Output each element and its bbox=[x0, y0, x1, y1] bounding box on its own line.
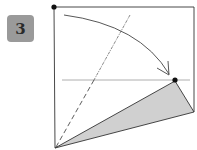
arrow-head-icon bbox=[157, 61, 169, 75]
shaded-folded-flap bbox=[55, 81, 194, 148]
corner-dot-top-left bbox=[51, 4, 56, 9]
curved-fold-arrow bbox=[64, 15, 169, 74]
target-dot bbox=[172, 77, 177, 82]
origami-diagram bbox=[0, 0, 197, 150]
dash-dot-fold-line bbox=[94, 15, 130, 80]
